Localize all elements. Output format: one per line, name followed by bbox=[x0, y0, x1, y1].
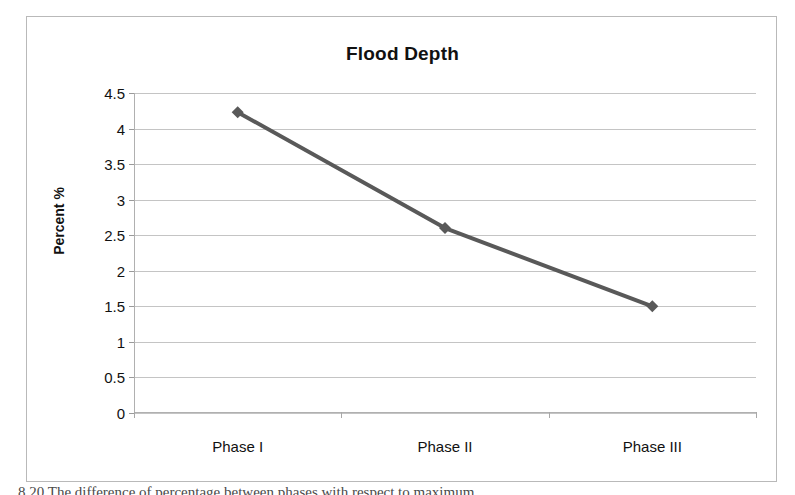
y-axis-tick-labels: 00.511.522.533.544.5 bbox=[63, 93, 125, 413]
data-point-marker bbox=[646, 300, 658, 312]
gridline bbox=[134, 413, 756, 414]
y-tick-label: 3.5 bbox=[65, 156, 125, 173]
y-tick-mark bbox=[129, 377, 134, 378]
y-tick-mark bbox=[129, 306, 134, 307]
x-tick-label: Phase II bbox=[341, 433, 548, 461]
y-tick-mark bbox=[129, 235, 134, 236]
series-line bbox=[238, 112, 653, 306]
x-tick-label: Phase I bbox=[134, 433, 341, 461]
y-tick-mark bbox=[129, 271, 134, 272]
figure-frame: Flood Depth Percent % 00.511.522.533.544… bbox=[26, 16, 777, 482]
x-tick-mark bbox=[134, 412, 135, 418]
figure-caption-clipped: 8.20 The difference of percentage betwee… bbox=[18, 484, 778, 495]
x-tick-label: Phase III bbox=[549, 433, 756, 461]
y-tick-mark bbox=[129, 129, 134, 130]
x-tick-mark bbox=[756, 412, 757, 418]
y-tick-label: 0 bbox=[65, 405, 125, 422]
x-tick-mark bbox=[549, 412, 550, 418]
y-tick-mark bbox=[129, 200, 134, 201]
y-tick-label: 4.5 bbox=[65, 85, 125, 102]
chart-title: Flood Depth bbox=[27, 43, 778, 65]
y-tick-label: 2.5 bbox=[65, 227, 125, 244]
x-tick-mark bbox=[341, 412, 342, 418]
y-tick-mark bbox=[129, 164, 134, 165]
series-line-chart bbox=[134, 93, 756, 413]
y-tick-label: 0.5 bbox=[65, 369, 125, 386]
x-axis-tick-labels: Phase IPhase IIPhase III bbox=[134, 433, 756, 461]
y-tick-label: 4 bbox=[65, 120, 125, 137]
y-tick-label: 1 bbox=[65, 333, 125, 350]
y-tick-label: 3 bbox=[65, 191, 125, 208]
y-tick-mark bbox=[129, 93, 134, 94]
y-tick-label: 1.5 bbox=[65, 298, 125, 315]
y-tick-mark bbox=[129, 342, 134, 343]
y-tick-label: 2 bbox=[65, 262, 125, 279]
plot-area bbox=[134, 93, 756, 413]
